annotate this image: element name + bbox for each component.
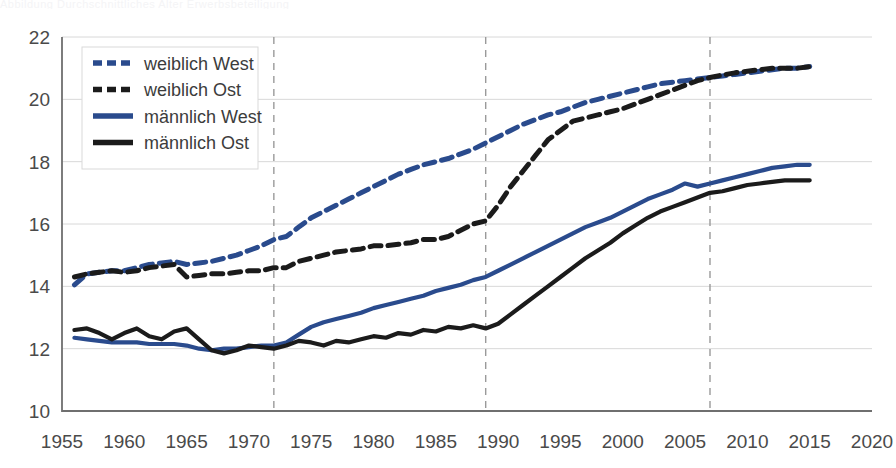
series-m-nnlich-west: [74, 165, 809, 350]
x-tick-1990: 1990: [477, 431, 519, 452]
series-m-nnlich-ost: [74, 180, 809, 353]
x-tick-1985: 1985: [415, 431, 457, 452]
y-tick-10: 10: [29, 401, 50, 422]
y-axis-tick-labels: 10121416182022: [29, 27, 51, 422]
y-tick-22: 22: [29, 27, 50, 48]
x-tick-1965: 1965: [165, 431, 207, 452]
y-tick-18: 18: [29, 152, 50, 173]
x-tick-2005: 2005: [664, 431, 706, 452]
cut-off-header-text: Abbildung Durchschnittliches Alter Erwer…: [0, 0, 896, 9]
legend-label-m-nnlich-ost: männlich Ost: [144, 133, 249, 153]
x-tick-1955: 1955: [41, 431, 83, 452]
x-tick-2010: 2010: [726, 431, 768, 452]
legend-label-weiblich-ost: weiblich Ost: [143, 80, 241, 100]
x-tick-2000: 2000: [602, 431, 644, 452]
y-tick-12: 12: [29, 339, 50, 360]
x-tick-2015: 2015: [789, 431, 831, 452]
x-tick-1975: 1975: [290, 431, 332, 452]
y-tick-20: 20: [29, 89, 50, 110]
y-tick-14: 14: [29, 276, 51, 297]
chart-container: Abbildung Durchschnittliches Alter Erwer…: [0, 0, 896, 468]
legend-label-weiblich-west: weiblich West: [143, 54, 254, 74]
x-tick-2020: 2020: [851, 431, 893, 452]
line-chart: 10121416182022 1955196019651970197519801…: [0, 0, 896, 468]
x-tick-1970: 1970: [228, 431, 270, 452]
x-tick-1980: 1980: [352, 431, 394, 452]
x-tick-1995: 1995: [539, 431, 581, 452]
chart-legend: weiblich Westweiblich Ostmännlich Westmä…: [82, 47, 262, 169]
legend-label-m-nnlich-west: männlich West: [144, 107, 262, 127]
x-tick-1960: 1960: [103, 431, 145, 452]
x-axis-tick-labels: 1955196019651970197519801985199019952000…: [41, 431, 893, 452]
y-tick-16: 16: [29, 214, 50, 235]
